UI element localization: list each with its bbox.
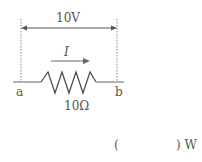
circuit-diagram — [0, 0, 202, 162]
voltage-arrow — [21, 26, 117, 31]
current-arrow — [51, 58, 90, 64]
node-b-label: b — [115, 86, 123, 98]
current-label: I — [64, 46, 69, 58]
answer-open-paren: ( — [114, 139, 119, 151]
resistance-label: 10Ω — [64, 100, 89, 112]
node-a-label: a — [16, 86, 23, 98]
voltage-label: 10V — [56, 12, 80, 24]
resistor — [13, 72, 124, 93]
answer-close-unit: ) W — [176, 139, 197, 151]
